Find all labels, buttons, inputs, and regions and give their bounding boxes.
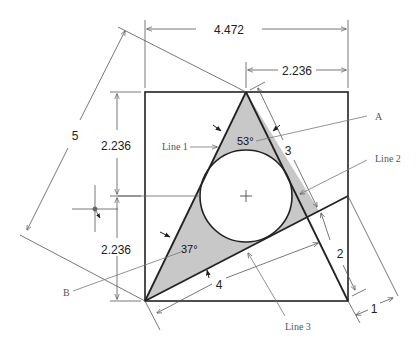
dim-left-lower-2236: 2.236 (101, 198, 131, 299)
callout-a: A (375, 111, 383, 122)
dim-top-2236: 2.236 (248, 64, 346, 78)
dim-left-lower-label: 2.236 (101, 243, 131, 257)
dim-2: 2 (321, 213, 366, 296)
dim-2-label: 2 (337, 247, 344, 261)
shaded-triangle-region (145, 92, 319, 301)
callout-line-3: Line 3 (285, 321, 311, 332)
callout-line-1: Line 1 (162, 141, 188, 152)
dim-5-label: 5 (72, 129, 79, 143)
dim-4472: 4.472 (147, 23, 346, 37)
dim-1: 1 (356, 298, 393, 316)
dim-4-label: 4 (216, 278, 223, 292)
angle-53-label: 53° (237, 135, 254, 147)
dim-4472-label: 4.472 (214, 23, 244, 37)
dim-top-2236-label: 2.236 (282, 64, 312, 78)
dim-left-upper-label: 2.236 (101, 139, 131, 153)
point-marker (72, 185, 118, 232)
dim-3-label: 3 (285, 144, 292, 158)
angle-37-label: 37° (181, 243, 198, 255)
dim-5: 5 (27, 31, 125, 230)
callout-b: B (63, 287, 70, 298)
callout-line-2: Line 2 (375, 153, 401, 164)
dim-left-upper-2236: 2.236 (101, 94, 131, 194)
geometry-diagram: 4.472 2.236 2.236 2.236 5 3 (0, 0, 417, 354)
dim-1-label: 1 (371, 302, 378, 316)
